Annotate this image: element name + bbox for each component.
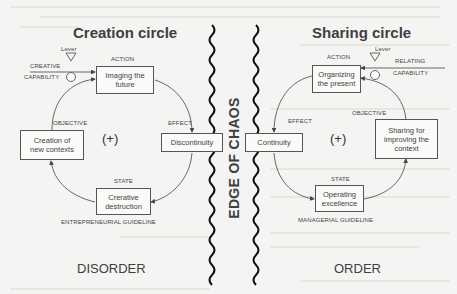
relating-capability-line2: CAPABILITY (393, 70, 428, 76)
box-operating-excellence: Operating excellence (315, 185, 364, 212)
creative-capability-line1: CREATIVE (30, 63, 60, 69)
right-state-label: STATE (331, 176, 350, 182)
box-discontinuity: Discontinuity (161, 133, 223, 152)
edge-of-chaos-label: EDGE OF CHAOS (226, 97, 242, 218)
edge-wave-right (254, 25, 259, 285)
box-imaging-the-future: Imaging the future (96, 66, 154, 94)
box-sharing-for-improving-the-context: Sharing for improving the context (375, 119, 438, 159)
order-label: ORDER (334, 261, 381, 276)
right-effect-label: EFFECT (288, 118, 312, 124)
left-effect-label: EFFECT (168, 120, 192, 126)
edge-wave-left (210, 25, 215, 285)
right-objective-label: OBJECTIVE (352, 110, 386, 116)
creative-capability-line2: CAPABILITY (24, 74, 59, 80)
disorder-label: DISORDER (77, 261, 146, 276)
left-objective-label: OBJECTIVE (53, 120, 87, 126)
left-state-label: STATE (114, 178, 133, 184)
left-lever-label: Lever (61, 46, 77, 52)
sharing-circle-title: Sharing circle (312, 24, 411, 41)
right-action-label: ACTION (327, 54, 350, 60)
box-organizing-the-present: Organizing the present (312, 65, 361, 93)
relating-capability-line1: RELATING (395, 58, 425, 64)
managerial-guideline: MANAGERIAL GUIDELINE (298, 217, 373, 223)
left-loop-sign: (+) (102, 131, 118, 146)
box-creation-of-new-contexts: Creation of new contexts (20, 130, 84, 160)
box-creative-destruction: Crerative destruction (96, 188, 151, 215)
left-action-label: ACTION (111, 56, 134, 62)
entrepreneurial-guideline: ENTREPRENEURIAL GUIDELINE (61, 219, 156, 225)
right-loop-sign: (+) (330, 131, 346, 146)
box-continuity: Continuity (245, 133, 303, 152)
creation-circle-title: Creation circle (73, 24, 177, 41)
right-lever-label: Lever (375, 46, 391, 52)
